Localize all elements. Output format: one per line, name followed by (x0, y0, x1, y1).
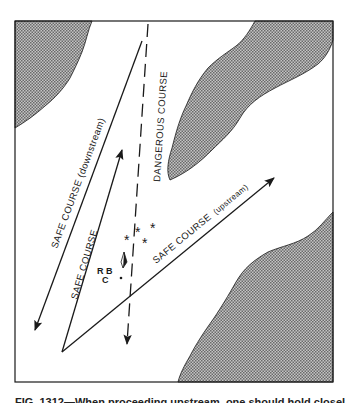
buoy-label-c: C (102, 275, 109, 285)
hazard-star-icon: * (142, 235, 148, 251)
label-safe-course: SAFE COURSE (68, 228, 99, 301)
label-dangerous-course: DANGEROUS COURSE (151, 71, 169, 182)
buoy-icon (120, 252, 127, 279)
hazard-star-icon: * (135, 224, 141, 240)
land-top-left (15, 21, 92, 128)
figure-caption: FIG. 1312—When proceeding upstream, one … (15, 391, 345, 403)
land-top-right (168, 21, 333, 180)
hazard-star-icon: * (124, 232, 130, 248)
hazard-marks: * * * * (124, 220, 156, 251)
hazard-star-icon: * (150, 220, 156, 236)
label-safe-course-upstream: SAFE COURSE(upstream) (150, 181, 250, 266)
